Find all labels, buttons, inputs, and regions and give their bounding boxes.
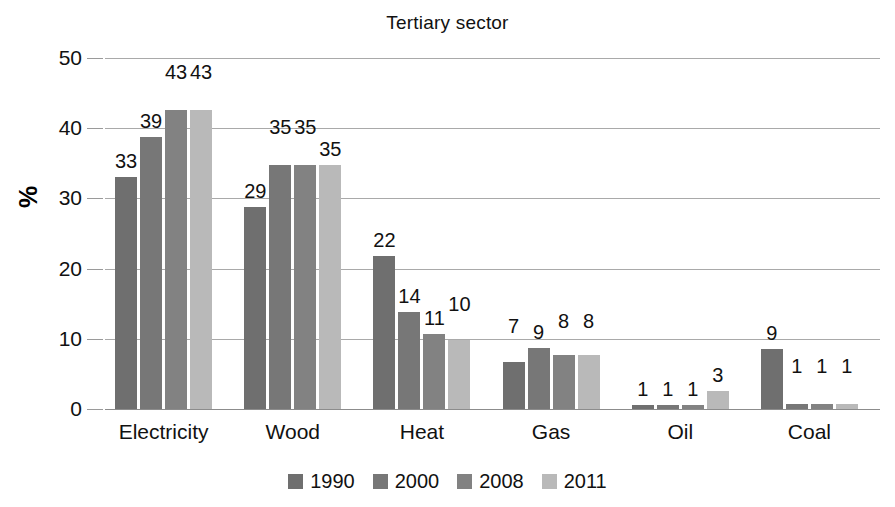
category-label-wood: Wood [266,420,320,444]
bar-value-label-heat-1990: 22 [373,229,395,252]
bar-value-label-oil-2000: 1 [662,378,673,401]
y-tick-label-20: 20 [38,257,82,281]
plot-area: 333943432935353522141110798811139111 [105,58,880,409]
legend-label-2011: 2011 [564,470,607,493]
bar-value-label-wood-2008: 35 [294,116,316,139]
bar-gas-1990[interactable] [503,362,525,409]
y-tick-0 [87,409,103,410]
gridline-0 [105,409,880,410]
bar-gas-2011[interactable] [578,355,600,409]
bar-value-label-gas-2000: 9 [533,321,544,344]
bar-coal-2011[interactable] [836,404,858,409]
bar-coal-2008[interactable] [811,404,833,409]
bar-value-label-electricity-2008: 43 [165,61,187,84]
bar-value-label-electricity-2000: 39 [140,110,162,133]
y-tick-30 [87,198,103,199]
bar-value-label-oil-2011: 3 [712,364,723,387]
y-tick-label-0: 0 [38,397,82,421]
category-label-coal: Coal [788,420,831,444]
bar-heat-2008[interactable] [423,334,445,409]
bar-value-label-coal-2011: 1 [841,355,852,378]
bar-value-label-wood-2000: 35 [269,116,291,139]
y-tick-10 [87,339,103,340]
bar-wood-2000[interactable] [269,165,291,409]
bar-group-heat: 22141110 [373,58,470,409]
bar-group-electricity: 33394343 [115,58,212,409]
y-tick-label-10: 10 [38,327,82,351]
bar-group-coal: 9111 [761,58,858,409]
bar-electricity-2011[interactable] [190,110,212,409]
legend-swatch-1990 [288,474,303,489]
bar-heat-1990[interactable] [373,256,395,409]
bar-value-label-gas-1990: 7 [508,315,519,338]
bar-value-label-heat-2008: 11 [424,307,445,330]
bar-electricity-1990[interactable] [115,177,137,409]
category-label-heat: Heat [400,420,444,444]
y-tick-label-50: 50 [38,46,82,70]
y-tick-20 [87,269,103,270]
legend-label-2008: 2008 [479,470,524,493]
bar-value-label-coal-1990: 9 [766,322,777,345]
bar-value-label-electricity-2011: 43 [190,61,212,84]
bar-value-label-coal-2000: 1 [791,355,802,378]
legend-swatch-2000 [373,474,388,489]
y-tick-label-30: 30 [38,186,82,210]
bar-oil-2000[interactable] [657,405,679,409]
bar-value-label-oil-1990: 1 [637,378,648,401]
legend-item-2008[interactable]: 2008 [457,470,524,493]
legend-item-2000[interactable]: 2000 [373,470,440,493]
y-tick-50 [87,58,103,59]
legend-item-2011[interactable]: 2011 [542,470,607,493]
bar-value-label-electricity-1990: 33 [115,150,137,173]
bar-coal-2000[interactable] [786,404,808,409]
category-label-electricity: Electricity [119,420,209,444]
bar-gas-2000[interactable] [528,348,550,409]
chart-title: Tertiary sector [0,12,895,34]
bar-value-label-coal-2008: 1 [816,355,827,378]
y-tick-40 [87,128,103,129]
category-label-gas: Gas [532,420,571,444]
bar-oil-1990[interactable] [632,405,654,409]
chart-legend: 1990200020082011 [0,470,895,493]
bar-value-label-gas-2008: 8 [558,310,569,333]
bar-coal-1990[interactable] [761,349,783,409]
bar-oil-2011[interactable] [707,391,729,409]
bar-electricity-2000[interactable] [140,137,162,409]
bar-heat-2011[interactable] [448,340,470,409]
category-label-oil: Oil [667,420,693,444]
bar-value-label-oil-2008: 1 [687,378,698,401]
bar-group-gas: 7988 [503,58,600,409]
bar-group-wood: 29353535 [244,58,341,409]
bar-wood-1990[interactable] [244,207,266,409]
bar-gas-2008[interactable] [553,355,575,409]
legend-label-2000: 2000 [395,470,440,493]
bar-oil-2008[interactable] [682,405,704,409]
bar-value-label-heat-2011: 10 [448,293,470,316]
legend-swatch-2011 [542,474,557,489]
bar-value-label-gas-2011: 8 [583,310,594,333]
legend-swatch-2008 [457,474,472,489]
bar-value-label-wood-1990: 29 [244,180,266,203]
bar-wood-2011[interactable] [319,165,341,409]
bar-value-label-heat-2000: 14 [398,285,420,308]
bar-heat-2000[interactable] [398,312,420,409]
bar-value-label-wood-2011: 35 [319,138,341,161]
y-tick-label-40: 40 [38,116,82,140]
bar-group-oil: 1113 [632,58,729,409]
bar-wood-2008[interactable] [294,165,316,409]
legend-label-1990: 1990 [310,470,355,493]
bar-electricity-2008[interactable] [165,110,187,409]
bar-chart: Tertiary sector % 50403020100 3339434329… [0,0,895,507]
legend-item-1990[interactable]: 1990 [288,470,355,493]
